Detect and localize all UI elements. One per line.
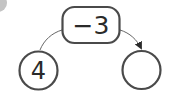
arrow-diagram: −3 4 [0, 0, 176, 98]
connector-arc-left [40, 30, 62, 50]
result-node [123, 51, 161, 89]
start-node-value: 4 [31, 57, 46, 85]
start-node: 4 [20, 52, 58, 90]
operation-label: −3 [73, 11, 110, 40]
arrow-right [120, 30, 141, 48]
operation-box: −3 [63, 7, 120, 43]
problem-number-badge [0, 0, 7, 12]
